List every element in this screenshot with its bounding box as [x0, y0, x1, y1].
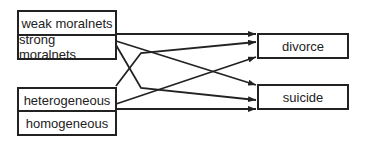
- morality-box: weak moralnets strong moralnets: [17, 10, 117, 60]
- heterogeneity-box: heterogeneous homogeneous: [17, 87, 117, 136]
- edge-strong-to-suicide-top: [116, 41, 256, 85]
- divorce-label: divorce: [259, 35, 347, 57]
- suicide-node: suicide: [257, 84, 349, 110]
- strong-moralnets-node: strong moralnets: [19, 34, 115, 58]
- suicide-label: suicide: [259, 86, 347, 108]
- edge-strong-to-suicide: [116, 45, 256, 100]
- heterogeneous-node: heterogeneous: [19, 89, 115, 111]
- homogeneous-node: homogeneous: [19, 110, 115, 134]
- divorce-node: divorce: [257, 33, 349, 59]
